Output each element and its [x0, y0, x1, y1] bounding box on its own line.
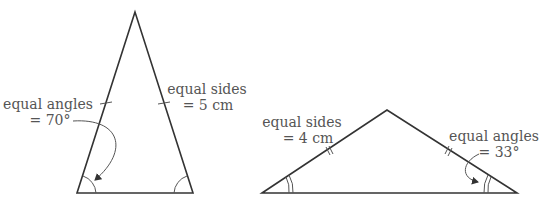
left-equal-angles-value: = 70° — [30, 112, 71, 128]
right-equal-sides-label: equal sides — [262, 114, 342, 130]
isosceles-triangles-diagram: equal angles = 70° equal sides = 5 cm eq… — [0, 0, 547, 209]
right-equal-angles-value: = 33° — [479, 144, 520, 160]
left-equal-sides-label: equal sides — [167, 81, 247, 97]
left-equal-angles-label: equal angles — [3, 96, 93, 112]
right-equal-angles-label: equal angles — [449, 128, 539, 144]
right-angle-arc-inner — [488, 177, 491, 193]
right-base-angle-arc — [174, 176, 187, 193]
left-equal-sides-value: = 5 cm — [183, 97, 234, 113]
angle-pointer-arrow — [73, 121, 116, 180]
left-base-angle-arc — [83, 176, 96, 193]
left-angle-arc-inner — [286, 177, 289, 193]
right-equal-sides-value: = 4 cm — [283, 130, 334, 146]
